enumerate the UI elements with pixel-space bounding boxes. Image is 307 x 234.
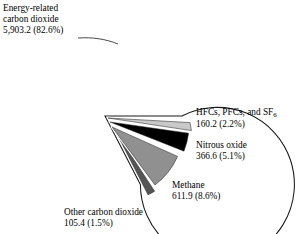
slice-label-text: HFCs, PFCs, and SF bbox=[196, 107, 273, 117]
slice-label-line: carbon dioxide bbox=[3, 14, 63, 25]
slice-label-line: Methane bbox=[172, 180, 220, 191]
slice-label-line: Nitrous oxide bbox=[196, 140, 247, 151]
slice-label-other-carbon-dioxide: Other carbon dioxide 105.4 (1.5%) bbox=[64, 207, 143, 229]
slice-label-line: Other carbon dioxide bbox=[64, 207, 143, 218]
slice-label-methane: Methane 611.9 (8.6%) bbox=[172, 180, 220, 202]
slice-label-line: HFCs, PFCs, and SF6 bbox=[196, 107, 277, 119]
slice-label-value: 160.2 (2.2%) bbox=[196, 119, 277, 130]
slice-label-value: 5,903.2 (82.6%) bbox=[3, 25, 63, 36]
pie-chart-figure: Energy-related carbon dioxide 5,903.2 (8… bbox=[0, 0, 307, 234]
slice-label-value: 611.9 (8.6%) bbox=[172, 191, 220, 202]
slice-label-subscript: 6 bbox=[273, 111, 277, 119]
slice-label-hfcs-pfcs-sf6: HFCs, PFCs, and SF6 160.2 (2.2%) bbox=[196, 107, 277, 130]
slice-label-value: 366.6 (5.1%) bbox=[196, 151, 247, 162]
slice-label-energy-related-carbon-dioxide: Energy-related carbon dioxide 5,903.2 (8… bbox=[3, 3, 63, 37]
slice-label-value: 105.4 (1.5%) bbox=[64, 218, 143, 229]
leader-line-energy-related bbox=[78, 38, 118, 44]
slice-label-nitrous-oxide: Nitrous oxide 366.6 (5.1%) bbox=[196, 140, 247, 162]
slice-label-line: Energy-related bbox=[3, 3, 63, 14]
